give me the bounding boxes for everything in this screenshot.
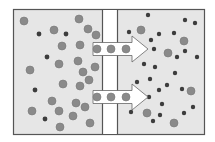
small-particle xyxy=(33,88,38,93)
large-particle xyxy=(84,25,92,33)
diffusion-diagram xyxy=(0,0,215,142)
small-particle xyxy=(129,110,133,114)
small-particle xyxy=(195,55,199,59)
large-particle xyxy=(85,76,93,84)
passing-particle xyxy=(107,45,115,53)
large-particle xyxy=(170,119,178,127)
small-particle xyxy=(135,80,139,84)
large-particle xyxy=(143,109,151,117)
large-particle xyxy=(180,37,188,45)
large-particle xyxy=(79,68,87,76)
small-particle xyxy=(64,32,69,37)
large-particle xyxy=(28,107,36,115)
large-particle xyxy=(86,119,94,127)
small-particle xyxy=(183,18,187,22)
small-particle xyxy=(153,65,157,69)
small-particle xyxy=(142,62,146,66)
small-particle xyxy=(172,31,176,35)
large-particle xyxy=(81,103,89,111)
small-particle xyxy=(127,30,131,34)
membrane-barrier xyxy=(102,10,117,134)
large-particle xyxy=(55,107,63,115)
small-particle xyxy=(183,49,187,53)
passing-particle xyxy=(107,93,115,101)
large-particle xyxy=(137,26,145,34)
passing-particle xyxy=(93,45,101,53)
large-particle xyxy=(56,123,64,131)
small-particle xyxy=(158,113,162,117)
small-particle xyxy=(157,32,161,36)
small-particle xyxy=(173,71,177,75)
passing-particle xyxy=(122,93,130,101)
small-particle xyxy=(152,47,156,51)
small-particle xyxy=(157,88,161,92)
large-particle xyxy=(26,66,34,74)
small-particle xyxy=(165,83,169,87)
large-particle xyxy=(69,112,77,120)
large-particle xyxy=(20,17,28,25)
small-particle xyxy=(43,117,48,122)
large-particle xyxy=(48,97,56,105)
large-particle xyxy=(74,57,82,65)
large-particle xyxy=(187,87,195,95)
small-particle xyxy=(45,55,50,60)
small-particle xyxy=(193,21,197,25)
large-particle xyxy=(50,26,58,34)
large-particle xyxy=(58,42,66,50)
small-particle xyxy=(37,32,42,37)
large-particle xyxy=(75,15,83,23)
small-particle xyxy=(148,77,152,81)
small-particle xyxy=(146,13,150,17)
diagram-canvas xyxy=(0,0,215,142)
small-particle xyxy=(175,55,179,59)
large-particle xyxy=(91,63,99,71)
large-particle xyxy=(55,60,63,68)
small-particle xyxy=(191,105,195,109)
small-particle xyxy=(151,119,155,123)
large-particle xyxy=(92,31,100,39)
passing-particle xyxy=(93,93,101,101)
small-particle xyxy=(182,111,186,115)
small-particle xyxy=(180,87,184,91)
large-particle xyxy=(72,99,80,107)
large-particle xyxy=(59,80,67,88)
small-particle xyxy=(160,102,164,106)
large-particle xyxy=(76,82,84,90)
large-particle xyxy=(76,41,84,49)
passing-particle xyxy=(122,45,130,53)
small-particle xyxy=(149,38,153,42)
large-particle xyxy=(164,49,172,57)
